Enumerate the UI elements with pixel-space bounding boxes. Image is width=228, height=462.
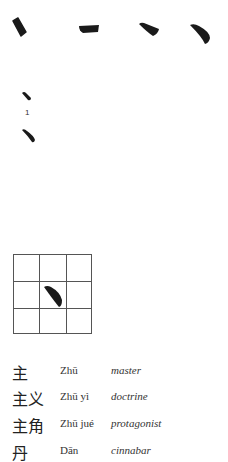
stroke-detail-dot-icon xyxy=(21,91,33,102)
vocab-meaning: protagonist xyxy=(111,417,161,429)
vocab-meaning: master xyxy=(111,364,141,376)
vocab-row: 主 Zhū master xyxy=(12,360,228,384)
vocab-pinyin: Dān xyxy=(60,444,78,456)
stroke-step-2-icon xyxy=(77,22,103,36)
vocab-pinyin: Zhū xyxy=(60,364,78,376)
grid-stroke-highlight-icon xyxy=(43,285,65,309)
vocab-hanzi: 丹 xyxy=(12,440,28,462)
stroke-step-3-icon xyxy=(138,20,162,40)
vocab-row: 主角 Zhū jué protagonist xyxy=(12,413,228,437)
stroke-detail-curve-icon xyxy=(21,128,37,144)
vocab-hanzi: 主 xyxy=(12,360,28,384)
stroke-step-4-icon xyxy=(188,22,214,46)
vocab-meaning: cinnabar xyxy=(111,444,151,456)
vocab-meaning: doctrine xyxy=(111,390,148,402)
vocab-pinyin: Zhū jué xyxy=(60,417,94,429)
vocab-hanzi: 主义 xyxy=(12,386,44,410)
vocab-row: 丹 Dān cinnabar xyxy=(12,440,228,462)
vocab-row: 主义 Zhū yì doctrine xyxy=(12,386,228,410)
stroke-step-1-icon xyxy=(10,16,32,40)
stroke-order-number: 1 xyxy=(25,108,29,117)
vocab-pinyin: Zhū yì xyxy=(60,390,89,402)
vocab-hanzi: 主角 xyxy=(12,413,44,437)
